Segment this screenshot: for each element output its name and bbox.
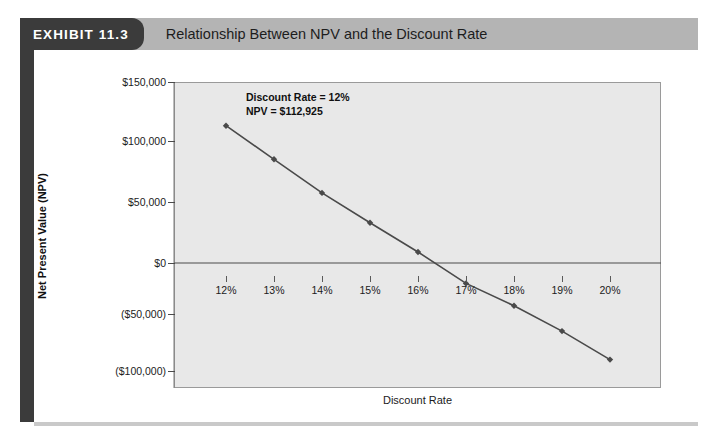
y-tick-label: $0 [154, 257, 166, 269]
chart-region: Net Present Value (NPV) Discount Rate $1… [34, 50, 698, 422]
x-tick-label: 12% [215, 284, 236, 296]
x-axis-title: Discount Rate [174, 394, 661, 406]
exhibit-number-tag: EXHIBIT 11.3 [20, 18, 144, 50]
y-tick-label: $150,000 [122, 76, 166, 88]
x-tick-label: 17% [455, 284, 476, 296]
x-tick-label: 16% [407, 284, 428, 296]
y-tick-label: $50,000 [128, 196, 166, 208]
x-tick-mark [514, 276, 515, 282]
y-tick-mark [168, 141, 175, 142]
y-tick-label: ($100,000) [115, 365, 166, 377]
x-tick-mark [370, 276, 371, 282]
annotation-line: Discount Rate = 12% [246, 90, 350, 104]
exhibit-title: Relationship Between NPV and the Discoun… [144, 18, 488, 50]
y-axis-tick-labels: $150,000$100,000$50,000$0($50,000)($100,… [62, 50, 166, 422]
x-tick-label: 20% [599, 284, 620, 296]
y-tick-mark [168, 82, 175, 83]
y-tick-mark [168, 263, 175, 264]
y-tick-mark [168, 202, 175, 203]
x-tick-mark [418, 276, 419, 282]
x-tick-mark [562, 276, 563, 282]
x-tick-label: 19% [551, 284, 572, 296]
y-tick-mark [168, 371, 175, 372]
x-tick-mark [226, 276, 227, 282]
x-tick-mark [274, 276, 275, 282]
x-tick-mark [610, 276, 611, 282]
x-tick-label: 15% [359, 284, 380, 296]
x-tick-mark [466, 276, 467, 282]
plot-area [174, 82, 661, 388]
x-tick-label: 14% [311, 284, 332, 296]
exhibit-header-bar: EXHIBIT 11.3 Relationship Between NPV an… [20, 18, 698, 50]
y-tick-label: $100,000 [122, 135, 166, 147]
annotation-line: NPV = $112,925 [246, 104, 350, 118]
y-axis-title: Net Present Value (NPV) [36, 173, 48, 299]
x-tick-mark [322, 276, 323, 282]
x-tick-label: 13% [263, 284, 284, 296]
x-tick-label: 18% [503, 284, 524, 296]
y-tick-label: ($50,000) [121, 308, 166, 320]
y-tick-mark [168, 314, 175, 315]
annotation-discount-rate-12: Discount Rate = 12%NPV = $112,925 [246, 90, 350, 118]
